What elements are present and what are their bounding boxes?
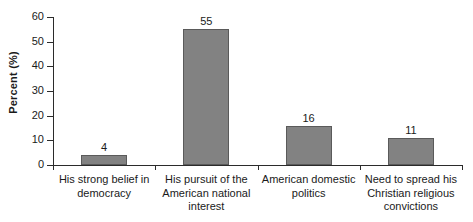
- category-label-2-line-2: American national: [155, 187, 257, 201]
- y-tick-label-30: 30: [0, 85, 44, 96]
- y-tick-label-wrap-30: 30: [0, 85, 44, 96]
- y-tick-label-wrap-60: 60: [0, 11, 44, 22]
- x-tick-0: [53, 165, 54, 170]
- bar-4: [388, 138, 434, 165]
- bar-2: [183, 29, 229, 165]
- bar-chart-figure: Percent (%) 0102030405060 4551611 His st…: [0, 0, 473, 222]
- y-tick-10: [47, 140, 53, 141]
- bar-value-label-1: 4: [74, 141, 134, 153]
- y-tick-label-10: 10: [0, 134, 44, 145]
- bar-1: [81, 155, 127, 165]
- x-tick-1: [155, 165, 156, 170]
- y-tick-label-0: 0: [0, 159, 44, 170]
- x-tick-4: [462, 165, 463, 170]
- category-label-2-line-3: interest: [155, 200, 257, 214]
- bar-value-label-3: 16: [279, 112, 339, 124]
- y-tick-40: [47, 66, 53, 67]
- y-tick-label-50: 50: [0, 36, 44, 47]
- category-label-4-line-2: Christian religious: [360, 187, 462, 201]
- y-tick-label-wrap-10: 10: [0, 134, 44, 145]
- y-tick-60: [47, 17, 53, 18]
- category-label-1-line-1: His strong belief in: [53, 173, 155, 187]
- bar-value-label-4: 11: [381, 124, 441, 136]
- y-tick-30: [47, 91, 53, 92]
- bar-3: [286, 126, 332, 165]
- y-tick-label-20: 20: [0, 110, 44, 121]
- bar-value-label-2: 55: [176, 15, 236, 27]
- y-tick-label-40: 40: [0, 60, 44, 71]
- x-tick-2: [258, 165, 259, 170]
- category-label-3-line-2: politics: [258, 187, 360, 201]
- y-axis-line: [53, 17, 54, 166]
- y-tick-label-60: 60: [0, 11, 44, 22]
- y-tick-50: [47, 42, 53, 43]
- y-tick-label-wrap-0: 0: [0, 159, 44, 170]
- category-label-4: Need to spread hisChristian religiouscon…: [360, 173, 462, 214]
- y-tick-label-wrap-40: 40: [0, 60, 44, 71]
- category-label-3: American domesticpolitics: [258, 173, 360, 200]
- y-tick-20: [47, 116, 53, 117]
- y-tick-label-wrap-50: 50: [0, 36, 44, 47]
- category-label-4-line-1: Need to spread his: [360, 173, 462, 187]
- category-label-3-line-1: American domestic: [258, 173, 360, 187]
- x-tick-3: [360, 165, 361, 170]
- category-label-1: His strong belief indemocracy: [53, 173, 155, 200]
- category-label-2-line-1: His pursuit of the: [155, 173, 257, 187]
- category-label-1-line-2: democracy: [53, 187, 155, 201]
- category-label-2: His pursuit of theAmerican nationalinter…: [155, 173, 257, 214]
- y-tick-label-wrap-20: 20: [0, 110, 44, 121]
- category-label-4-line-3: convictions: [360, 200, 462, 214]
